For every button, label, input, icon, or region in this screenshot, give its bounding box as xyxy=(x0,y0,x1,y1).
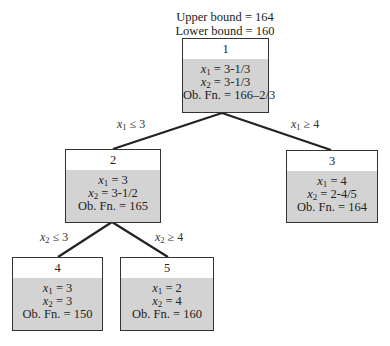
node-4-id: 4 xyxy=(13,258,102,278)
node-5-obfn: Ob. Fn. = 160 xyxy=(121,308,213,321)
node-1-obfn: Ob. Fn. = 166–2/3 xyxy=(183,89,268,102)
node-3-obfn: Ob. Fn. = 164 xyxy=(287,201,377,214)
node-1-id: 1 xyxy=(183,39,268,59)
node-5-id: 5 xyxy=(121,258,213,278)
node-2-id: 2 xyxy=(66,150,160,170)
node-3: 3 x1 = 4 x2 = 2-4/5 Ob. Fn. = 164 xyxy=(286,150,378,223)
edge-label-2-4: x2 ≤ 3 xyxy=(40,230,68,245)
edge-label-1-2: x1 ≤ 3 xyxy=(117,117,145,132)
node-3-id: 3 xyxy=(287,151,377,171)
node-2-obfn: Ob. Fn. = 165 xyxy=(66,200,160,213)
node-2: 2 x1 = 3 x2 = 3-1/2 Ob. Fn. = 165 xyxy=(65,149,161,223)
node-5: 5 x1 = 2 x2 = 4 Ob. Fn. = 160 xyxy=(120,257,214,331)
node-4-obfn: Ob. Fn. = 150 xyxy=(13,308,102,321)
node-4: 4 x1 = 3 x2 = 3 Ob. Fn. = 150 xyxy=(12,257,103,331)
edge-label-1-3: x1 ≥ 4 xyxy=(291,117,319,132)
edge-label-2-5: x2 ≥ 4 xyxy=(155,230,183,245)
node-1: 1 x1 = 3-1/3 x2 = 3-1/3 Ob. Fn. = 166–2/… xyxy=(182,38,269,113)
